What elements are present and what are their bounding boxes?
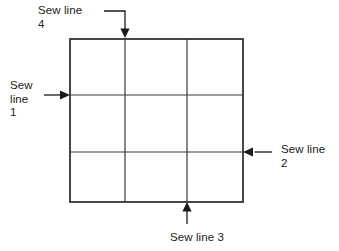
sew-line-3-arrow bbox=[182, 202, 191, 224]
sew-line-1-arrowhead bbox=[60, 90, 70, 99]
sew-line-4-arrowhead bbox=[120, 29, 129, 39]
sew-line-2-label: Sew line 2 bbox=[281, 143, 325, 170]
diagram-canvas: Sew line 4 Sew line 1 Sew line 2 Sew lin… bbox=[0, 0, 339, 251]
outer-square-outline bbox=[70, 39, 243, 202]
sew-line-1-label: Sew line 1 bbox=[10, 79, 33, 120]
sew-line-4-leader bbox=[104, 11, 125, 31]
sewing-grid-diagram bbox=[0, 0, 339, 251]
sew-line-4-label: Sew line 4 bbox=[38, 4, 82, 31]
grid-inner-lines bbox=[70, 39, 243, 202]
sew-line-1-arrow bbox=[44, 90, 70, 99]
sew-line-3-arrowhead bbox=[182, 202, 191, 212]
grid-outer-square bbox=[70, 39, 243, 202]
sew-line-4-arrow bbox=[104, 11, 130, 38]
sew-line-3-label: Sew line 3 bbox=[170, 231, 224, 245]
sew-line-2-arrowhead bbox=[243, 147, 253, 156]
sew-line-2-arrow bbox=[243, 147, 272, 156]
